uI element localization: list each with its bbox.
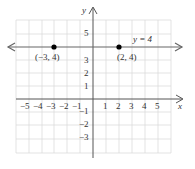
line-equation-label: y = 4 [132, 34, 153, 44]
x-tick-neg4: −4 [33, 101, 43, 111]
x-tick-4: 4 [142, 101, 147, 111]
y-tick-2: 2 [84, 68, 89, 78]
x-tick-3: 3 [129, 101, 134, 111]
y-axis [89, 7, 97, 158]
y-tick-5: 5 [84, 28, 89, 38]
x-tick-neg2: −2 [59, 101, 69, 111]
x-tick-neg1: −1 [72, 101, 82, 111]
y-axis-label: y [81, 5, 86, 15]
x-tick-neg3: −3 [46, 101, 56, 111]
x-tick-1: 1 [103, 101, 108, 111]
x-axis-label: x [177, 101, 182, 111]
point-label-2-4: (2, 4) [117, 52, 137, 62]
x-tick-neg5: −5 [20, 101, 30, 111]
y-tick-neg2: −2 [79, 119, 89, 129]
point-2-4 [116, 44, 121, 49]
y-tick-1: 1 [84, 81, 89, 91]
coordinate-plane: (−3, 4) (2, 4) y = 4 y x 5 3 2 1 −1 −2 −… [0, 0, 195, 169]
x-tick-5: 5 [155, 101, 160, 111]
y-tick-3: 3 [84, 55, 89, 65]
point-label-neg3-4: (−3, 4) [35, 52, 60, 62]
line-y-equals-4 [8, 43, 182, 51]
x-tick-2: 2 [116, 101, 121, 111]
y-tick-neg3: −3 [79, 132, 89, 142]
point-neg3-4 [51, 44, 56, 49]
